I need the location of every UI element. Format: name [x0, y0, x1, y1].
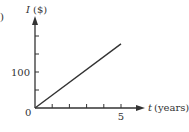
x-axis-unit: (years): [154, 102, 189, 113]
x-axis-arrow-icon: [136, 105, 145, 111]
y-axis-arrow-icon: [32, 16, 38, 25]
x-ticks: 5: [52, 104, 124, 122]
y-axis-var: I: [25, 4, 31, 15]
data-series: [35, 44, 121, 108]
y-axis-unit: ($): [33, 4, 47, 15]
y-tick-label: 100: [11, 67, 30, 78]
series-line: [35, 44, 121, 108]
chart-figure: ) 100 5 I ($) t (years) 0: [0, 0, 189, 132]
part-label: ): [0, 10, 4, 22]
x-tick-label: 5: [118, 111, 124, 122]
x-axis-var: t: [148, 102, 153, 113]
chart-svg: 100 5 I ($) t (years) 0: [0, 0, 189, 132]
origin-label: 0: [25, 107, 31, 118]
